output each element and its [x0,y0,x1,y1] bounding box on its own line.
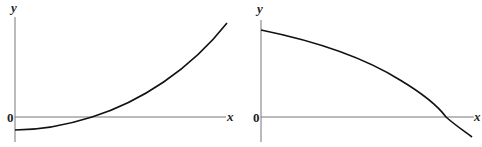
right-curve [261,30,472,137]
right-graph: y 0 x [253,1,481,142]
left-origin-label: 0 [7,110,14,125]
graphs-figure: y 0 x y 0 x [0,0,482,147]
right-origin-label: 0 [253,110,260,125]
right-y-label: y [255,1,263,16]
left-curve [15,23,227,130]
left-x-label: x [226,109,234,124]
left-y-label: y [9,0,17,15]
right-x-label: x [473,109,481,124]
left-graph: y 0 x [7,0,234,142]
